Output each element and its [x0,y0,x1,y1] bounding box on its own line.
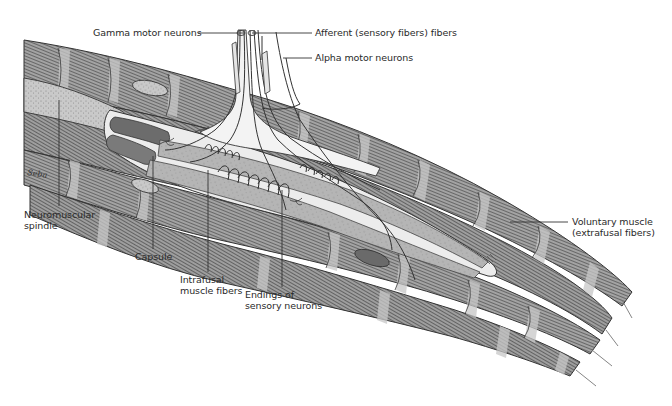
label-capsule: Capsule [135,251,172,262]
label-endings-line1: Endings of [245,289,322,300]
label-alpha-motor-neurons: Alpha motor neurons [315,52,413,63]
label-neuromuscular-spindle: Neuromuscular spindle [24,209,95,231]
label-intrafusal-line2: muscle fibers [180,285,242,296]
label-spindle-line2: spindle [24,220,95,231]
label-afferent-fibers: Afferent (sensory fibers) fibers [315,27,457,38]
label-spindle-line1: Neuromuscular [24,209,95,220]
label-endings-line2: sensory neurons [245,300,322,311]
label-gamma-motor-neurons: Gamma motor neurons [93,27,202,38]
label-voluntary-muscle: Voluntary muscle (extrafusal fibers) [572,216,655,238]
label-intrafusal-line1: Intrafusal [180,274,242,285]
label-voluntary-line1: Voluntary muscle [572,216,655,227]
neuromuscular-spindle-diagram: Seba Gamma motor neurons Afferent (senso… [0,0,672,406]
label-voluntary-line2: (extrafusal fibers) [572,227,655,238]
label-endings-of-sensory-neurons: Endings of sensory neurons [245,289,322,311]
label-intrafusal-muscle-fibers: Intrafusal muscle fibers [180,274,242,296]
